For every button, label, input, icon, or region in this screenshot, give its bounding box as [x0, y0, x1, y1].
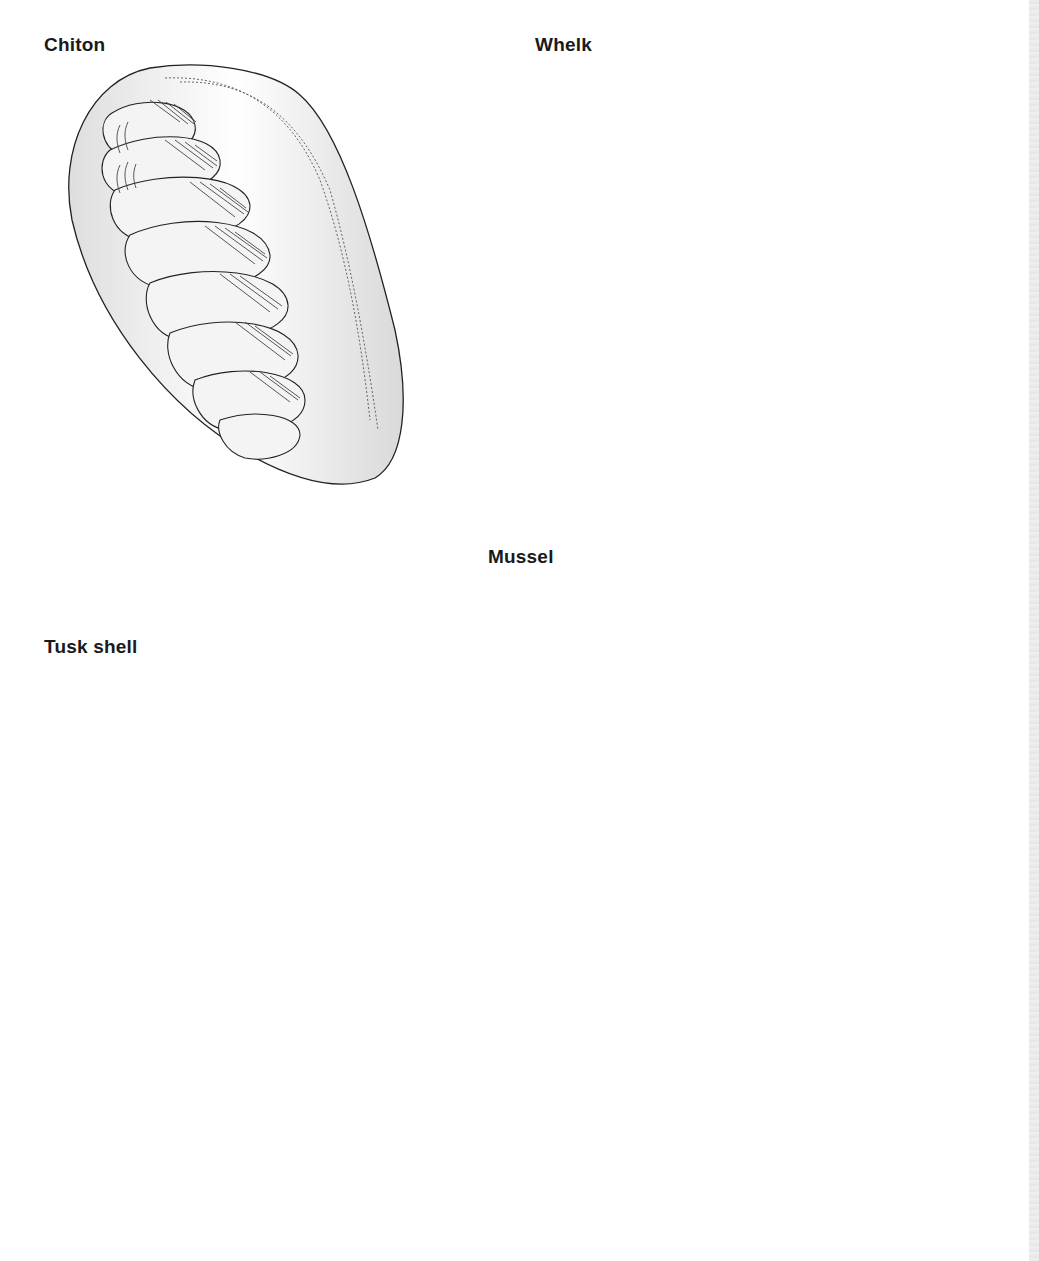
- mussel-label: Mussel: [488, 546, 554, 568]
- chiton-illustration: [69, 65, 403, 484]
- book-page: Chiton Whelk Mussel Tusk shell: [0, 0, 1039, 1261]
- chiton-label: Chiton: [44, 34, 105, 56]
- whelk-label: Whelk: [535, 34, 592, 56]
- tusk-shell-label: Tusk shell: [44, 636, 138, 658]
- illustration-canvas: [0, 0, 1039, 1261]
